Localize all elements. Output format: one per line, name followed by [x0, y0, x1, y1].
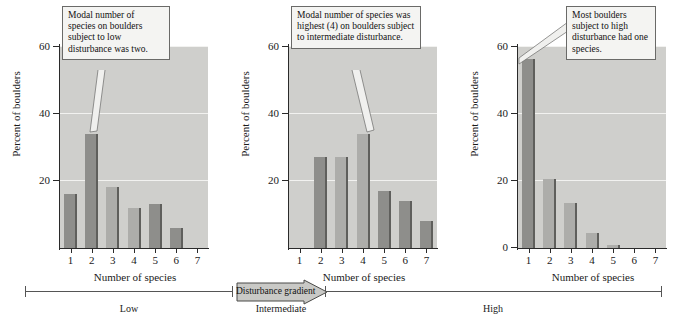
disturbance-gradient-strip: Disturbance gradient Low Intermediate Hi… [0, 276, 687, 323]
y-tick-label-40: 40 [478, 108, 508, 119]
bar-face [420, 221, 431, 248]
bar-face [106, 187, 117, 248]
bar-middle-species-2 [314, 157, 327, 248]
gradient-cap-left [25, 286, 26, 297]
y-axis-title-low: Percent of boulders [10, 49, 22, 179]
bar-left-species-2 [85, 134, 98, 248]
bar-shadow-edge [410, 201, 412, 248]
bar-shadow-edge [117, 187, 119, 248]
bar-right-species-4 [586, 233, 599, 248]
x-tick-label-5: 5 [603, 254, 623, 266]
gradient-line-low [25, 291, 233, 292]
bar-shadow-edge [533, 59, 535, 248]
gradient-cap-right [661, 286, 662, 297]
bar-shadow-edge [346, 157, 348, 248]
x-tick-label-3: 3 [103, 254, 123, 266]
bar-face [149, 204, 160, 248]
y-tick-label-40: 40 [20, 108, 50, 119]
y-tick-40 [53, 113, 60, 114]
callout-high-disturbance: Most boulders subject to high disturbanc… [566, 6, 656, 60]
x-tick-7 [655, 248, 656, 253]
x-tick-3 [342, 248, 343, 253]
x-tick-label-2: 2 [311, 254, 331, 266]
x-tick-7 [197, 248, 198, 253]
x-tick-label-7: 7 [645, 254, 665, 266]
x-tick-label-6: 6 [395, 254, 415, 266]
bar-shadow-edge [368, 134, 370, 248]
y-tick-label-20: 20 [249, 175, 279, 186]
gridline-20 [518, 180, 666, 181]
x-tick-2 [321, 248, 322, 253]
bar-left-species-4 [128, 208, 141, 248]
gradient-label-intermediate: Intermediate [231, 303, 331, 314]
x-tick-label-1: 1 [290, 254, 310, 266]
x-tick-3 [113, 248, 114, 253]
x-tick-label-2: 2 [82, 254, 102, 266]
bar-middle-species-7 [420, 221, 433, 248]
y-tick-label-60: 60 [249, 41, 279, 52]
x-tick-label-6: 6 [166, 254, 186, 266]
x-tick-5 [155, 248, 156, 253]
figure-root: 60 40 20 1234567 Number of species Perce… [0, 0, 687, 323]
bar-face [399, 201, 410, 248]
bar-face [85, 134, 96, 248]
bar-left-species-1 [64, 194, 77, 248]
bar-shadow-edge [389, 191, 391, 248]
bar-shadow-edge [160, 204, 162, 248]
bar-middle-species-5 [378, 191, 391, 248]
bar-shadow-edge [75, 194, 77, 248]
y-axis-high [517, 44, 518, 250]
y-tick-60 [53, 46, 60, 47]
bar-face [170, 228, 181, 248]
x-tick-1 [300, 248, 301, 253]
x-tick-7 [426, 248, 427, 253]
x-tick-label-1: 1 [519, 254, 539, 266]
gradient-label-high: High [443, 303, 543, 314]
y-tick-label-0: 0 [478, 242, 508, 253]
y-tick-label-20: 20 [478, 175, 508, 186]
x-tick-label-3: 3 [332, 254, 352, 266]
x-tick-2 [92, 248, 93, 253]
bar-shadow-edge [597, 233, 599, 248]
gridline-40 [289, 113, 437, 114]
bar-face [586, 233, 597, 248]
gridline-40 [518, 113, 666, 114]
x-tick-3 [571, 248, 572, 253]
callout-intermediate-disturbance: Modal number of species was highest (4) … [291, 6, 421, 49]
bar-shadow-edge [181, 228, 183, 248]
bar-left-species-5 [149, 204, 162, 248]
bar-face [314, 157, 325, 248]
x-tick-label-6: 6 [624, 254, 644, 266]
bar-shadow-edge [575, 203, 577, 248]
y-tick-label-60: 60 [478, 41, 508, 52]
bar-left-species-6 [170, 228, 183, 248]
y-tick-label-40: 40 [249, 108, 279, 119]
y-tick-40 [282, 113, 289, 114]
x-tick-label-7: 7 [187, 254, 207, 266]
y-tick-label-60: 60 [20, 41, 50, 52]
x-tick-4 [363, 248, 364, 253]
bar-shadow-edge [96, 134, 98, 248]
x-tick-4 [592, 248, 593, 253]
bar-right-species-2 [543, 179, 556, 248]
x-tick-5 [384, 248, 385, 253]
y-axis-low [59, 44, 60, 250]
x-tick-label-4: 4 [582, 254, 602, 266]
bar-shadow-edge [554, 179, 556, 248]
y-tick-60 [511, 46, 518, 47]
plot-area-intermediate [289, 46, 437, 248]
bar-face [64, 194, 75, 248]
y-axis-title-high: Percent of boulders [468, 49, 480, 179]
gradient-line-high [325, 291, 662, 292]
y-axis-intermediate [288, 44, 289, 250]
x-tick-6 [176, 248, 177, 253]
bar-left-species-3 [106, 187, 119, 248]
x-tick-label-5: 5 [374, 254, 394, 266]
y-tick-40 [511, 113, 518, 114]
x-tick-2 [550, 248, 551, 253]
gradient-label-low: Low [79, 303, 179, 314]
x-tick-label-5: 5 [145, 254, 165, 266]
bar-right-species-1 [522, 59, 535, 248]
x-tick-label-7: 7 [416, 254, 436, 266]
bar-face [357, 134, 368, 248]
